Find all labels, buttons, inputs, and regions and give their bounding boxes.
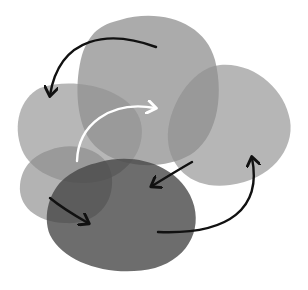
diagram-canvas [0,0,308,290]
blob-cycle-diagram [0,0,308,290]
blob-bottom-center [47,159,196,272]
